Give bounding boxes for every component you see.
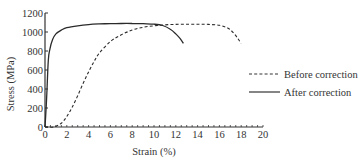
x-tick-label: 0 bbox=[42, 129, 47, 140]
x-tick-label: 18 bbox=[236, 129, 247, 140]
y-axis: 020040060080010001200 bbox=[22, 8, 48, 133]
y-tick-label: 1000 bbox=[22, 27, 43, 38]
x-tick-label: 20 bbox=[258, 129, 269, 140]
x-tick-label: 8 bbox=[130, 129, 135, 140]
legend-label-after: After correction bbox=[284, 87, 352, 98]
series-before-correction bbox=[45, 24, 241, 127]
y-tick-label: 600 bbox=[27, 65, 43, 76]
x-tick-label: 10 bbox=[149, 129, 160, 140]
x-tick-label: 6 bbox=[108, 129, 113, 140]
stress-strain-chart: 020040060080010001200 02468101214161820 … bbox=[0, 0, 358, 167]
x-tick-label: 14 bbox=[192, 129, 203, 140]
y-tick-label: 200 bbox=[27, 103, 43, 114]
x-tick-label: 16 bbox=[214, 129, 225, 140]
y-tick-label: 400 bbox=[27, 84, 43, 95]
x-axis: 02468101214161820 bbox=[42, 125, 268, 140]
x-axis-title: Strain (%) bbox=[132, 146, 176, 158]
x-tick-label: 2 bbox=[64, 129, 69, 140]
legend: Before correction After correction bbox=[249, 69, 358, 98]
series-layer bbox=[45, 23, 241, 127]
y-tick-label: 1200 bbox=[22, 8, 43, 19]
legend-label-before: Before correction bbox=[284, 69, 358, 80]
y-axis-title: Stress (MPa) bbox=[5, 56, 17, 111]
x-tick-label: 4 bbox=[86, 129, 92, 140]
series-after-correction bbox=[45, 23, 183, 127]
y-tick-label: 800 bbox=[27, 46, 43, 57]
x-tick-label: 12 bbox=[171, 129, 182, 140]
